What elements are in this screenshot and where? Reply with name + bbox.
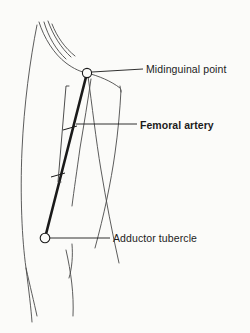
- leg-outline: [21, 21, 121, 322]
- femoral-artery-line: [45, 73, 87, 238]
- artery-tick-mark-upper: [63, 126, 77, 130]
- artery-tick-mark-lower: [51, 173, 65, 177]
- femoral-artery-line-group: [45, 73, 87, 238]
- label-adductor-tubercle: Adductor tubercle: [113, 232, 197, 244]
- leader-lines: [50, 69, 143, 238]
- femoral-triangle-lateral-border: [95, 90, 121, 248]
- thigh-lateral-outline: [21, 25, 37, 322]
- inguinal-ligament-arc: [87, 73, 120, 88]
- anatomy-figure-page: Midinguinal point Femoral artery Adducto…: [0, 0, 250, 333]
- skin-crease-line-3: [52, 24, 75, 56]
- femoral-artery-diagram: [0, 0, 250, 333]
- label-midinguinal-point: Midinguinal point: [146, 63, 227, 75]
- adductor-tubercle-circle: [40, 233, 50, 243]
- leader-line-midinguinal-point: [92, 69, 143, 72]
- midinguinal-point-circle: [82, 68, 91, 77]
- label-femoral-artery: Femoral artery: [140, 119, 214, 131]
- calf-lateral-outline: [26, 268, 37, 316]
